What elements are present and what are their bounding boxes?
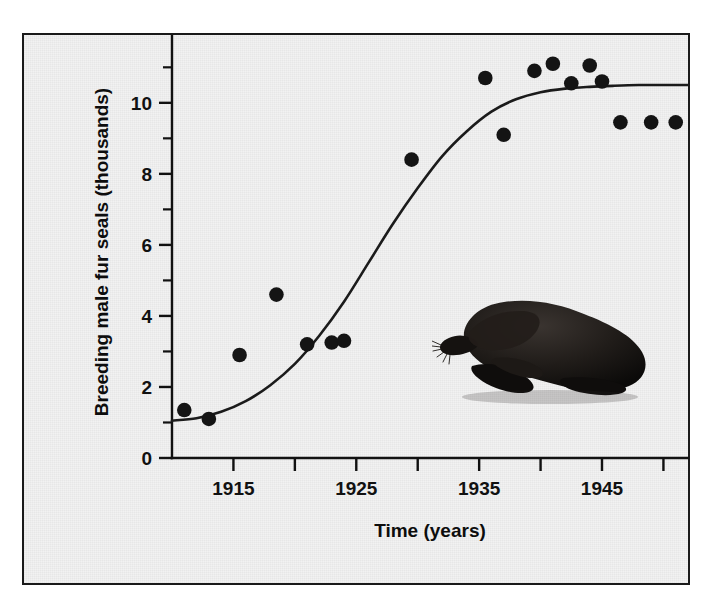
x-tick-label-1925: 1925 [335,478,378,499]
x-tick-label-1945: 1945 [581,478,624,499]
data-point [478,71,493,86]
data-point [564,76,579,91]
data-point [232,348,247,363]
data-point [177,403,192,418]
x-axis-title: Time (years) [374,520,486,541]
y-tick-label-8: 8 [141,164,152,185]
data-point [644,115,659,130]
data-point [595,74,610,89]
data-point [202,412,217,427]
data-points [177,56,683,426]
x-axis: 1915192519351945 [172,458,688,499]
data-point [269,287,284,302]
data-point [582,58,597,73]
fitted-logistic-curve [172,85,688,421]
x-tick-label-1915: 1915 [212,478,255,499]
y-tick-label-2: 2 [141,377,152,398]
y-axis: 0246810 [131,36,172,469]
chart-canvas: 0246810 1915192519351945 Time (years)Bre… [0,0,716,615]
data-point [337,333,352,348]
y-tick-label-0: 0 [141,448,152,469]
data-point [546,56,561,71]
y-tick-label-10: 10 [131,93,152,114]
data-point [300,337,315,352]
x-tick-label-1935: 1935 [458,478,501,499]
data-point [404,152,419,167]
data-point [668,115,683,130]
data-point [527,64,542,79]
data-point [496,127,511,142]
y-tick-label-6: 6 [141,235,152,256]
fitted-curve [172,85,688,421]
data-point [324,335,339,350]
figure-root: 0246810 1915192519351945 Time (years)Bre… [0,0,716,615]
y-axis-title: Breeding male fur seals (thousands) [91,88,112,416]
y-tick-label-4: 4 [141,306,152,327]
data-point [613,115,628,130]
